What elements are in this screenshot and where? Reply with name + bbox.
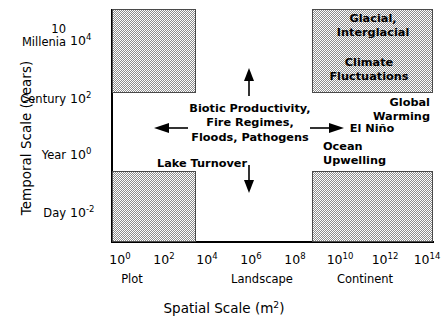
x-tick-10e0: 100 (100, 252, 140, 267)
x-tick-10e6: 106 (231, 252, 271, 267)
y-tick-10e0: 100 (70, 147, 91, 162)
x-tick-10e0-exp: 0 (125, 251, 130, 261)
x-region-plot: Plot (102, 272, 162, 286)
x-tick-10e10-exp: 10 (343, 251, 354, 261)
y-tick-10e-2: 10-2 (70, 205, 94, 220)
y-tick-word-10-millenia: 10Millenia (0, 23, 66, 49)
shaded-region-top-left (112, 9, 196, 93)
y-tick-10e4-base: 10 (70, 33, 86, 48)
y-tick-word-day: Day (0, 207, 66, 220)
shaded-region-bottom-right (312, 171, 433, 242)
y-tick-10e2-base: 10 (70, 91, 86, 106)
x-tick-10e12-base: 10 (372, 252, 388, 267)
x-tick-10e8: 108 (275, 252, 315, 267)
x-tick-10e14-base: 10 (414, 252, 430, 267)
x-tick-10e4-exp: 4 (212, 251, 217, 261)
x-axis-title-tail: ) (279, 300, 284, 316)
scales-diagram: Temporal Scale (years) Spatial Scale (m2… (0, 0, 448, 327)
annotation-ocean-upwelling: Ocean Upwelling (323, 140, 423, 169)
x-tick-10e12: 1012 (363, 252, 407, 267)
x-tick-10e10: 1010 (318, 252, 362, 267)
x-tick-10e6-exp: 6 (256, 251, 261, 261)
x-tick-10e4: 104 (187, 252, 227, 267)
y-tick-10e2: 102 (70, 91, 91, 106)
arrow-down-icon (241, 163, 257, 195)
x-axis-title-base: Spatial Scale (m (164, 300, 274, 316)
y-tick-10e4: 104 (70, 33, 91, 48)
x-tick-10e6-base: 10 (240, 252, 256, 267)
x-tick-10e8-exp: 8 (300, 251, 305, 261)
y-tick-10e-2-exp: -2 (86, 204, 94, 214)
y-tick-10e2-exp: 2 (86, 90, 91, 100)
arrow-right-icon (308, 120, 348, 136)
x-tick-10e14-exp: 14 (430, 251, 441, 261)
x-tick-10e0-base: 10 (109, 252, 125, 267)
x-tick-10e10-base: 10 (327, 252, 343, 267)
y-tick-10e0-base: 10 (70, 147, 86, 162)
annotation-climate-fluctuations: Climate Fluctuations (318, 56, 420, 85)
x-axis-title: Spatial Scale (m2) (0, 300, 448, 316)
y-tick-word-century: Century (0, 93, 66, 106)
x-region-continent: Continent (325, 272, 405, 286)
y-tick-word-year: Year (0, 149, 66, 162)
arrow-up-icon (241, 66, 257, 98)
x-region-landscape: Landscape (222, 272, 302, 286)
x-tick-10e8-base: 10 (284, 252, 300, 267)
x-tick-10e12-exp: 12 (388, 251, 399, 261)
annotation-el-nino: El Niño (338, 122, 406, 136)
annotation-glacial-interglacial: Glacial, Interglacial (323, 12, 423, 41)
y-tick-10e-2-base: 10 (70, 205, 86, 220)
shaded-region-bottom-left (112, 171, 196, 242)
x-tick-10e2: 102 (144, 252, 184, 267)
arrow-left-icon (150, 120, 190, 136)
x-tick-10e14: 1014 (405, 252, 448, 267)
y-tick-word-millenia: Millenia (22, 35, 66, 49)
annotation-lake-turnover: Lake Turnover (152, 157, 252, 171)
x-tick-10e2-exp: 2 (169, 251, 174, 261)
annotation-biotic-productivity: Biotic Productivity, Fire Regimes, Flood… (186, 102, 314, 145)
y-tick-10e4-exp: 4 (86, 32, 91, 42)
y-tick-10e0-exp: 0 (86, 146, 91, 156)
x-tick-10e2-base: 10 (153, 252, 169, 267)
x-tick-10e4-base: 10 (196, 252, 212, 267)
